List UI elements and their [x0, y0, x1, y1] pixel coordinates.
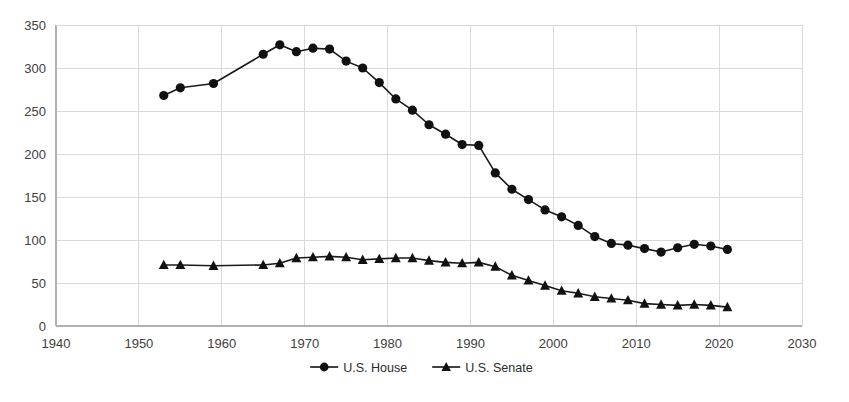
data-point-marker: [690, 240, 699, 249]
data-point-marker: [524, 195, 533, 204]
data-point-marker: [458, 140, 467, 149]
data-point-marker: [623, 241, 632, 250]
data-point-marker: [656, 247, 665, 256]
line-chart: 350300250200150100500 194019501960197019…: [0, 0, 849, 402]
x-tick-label: 1990: [456, 336, 485, 351]
x-tick-label: 2000: [539, 336, 568, 351]
data-point-marker: [292, 47, 301, 56]
x-tick-label: 1960: [207, 336, 236, 351]
x-tick-label: 1970: [290, 336, 319, 351]
y-tick-label: 100: [24, 233, 46, 248]
data-point-marker: [590, 232, 599, 241]
data-point-marker: [275, 40, 284, 49]
y-tick-label: 150: [24, 190, 46, 205]
x-tick-label: 1950: [124, 336, 153, 351]
chart-container: 350300250200150100500 194019501960197019…: [0, 0, 849, 402]
data-point-marker: [723, 245, 732, 254]
data-point-marker: [574, 221, 583, 230]
data-point-marker: [607, 239, 616, 248]
data-point-marker: [673, 243, 682, 252]
y-tick-label: 350: [24, 18, 46, 33]
x-tick-label: 2020: [705, 336, 734, 351]
x-tick-label: 2030: [788, 336, 817, 351]
data-point-marker: [408, 106, 417, 115]
data-point-marker: [159, 91, 168, 100]
data-point-marker: [491, 168, 500, 177]
data-point-marker: [391, 94, 400, 103]
data-point-marker: [209, 79, 218, 88]
data-point-marker: [424, 120, 433, 129]
data-point-marker: [640, 244, 649, 253]
data-point-marker: [557, 212, 566, 221]
data-point-marker: [259, 50, 268, 59]
data-point-marker: [706, 241, 715, 250]
x-tick-label: 2010: [622, 336, 651, 351]
data-point-marker: [308, 44, 317, 53]
data-point-marker: [325, 44, 334, 53]
y-tick-label: 200: [24, 147, 46, 162]
x-tick-label: 1940: [42, 336, 71, 351]
y-tick-label: 250: [24, 104, 46, 119]
y-tick-label: 50: [32, 276, 46, 291]
y-tick-label: 0: [39, 319, 46, 334]
data-point-marker: [358, 63, 367, 72]
data-point-marker: [474, 141, 483, 150]
legend-label: U.S. House: [343, 361, 407, 375]
y-tick-label: 300: [24, 61, 46, 76]
legend-label: U.S. Senate: [465, 361, 532, 375]
data-point-marker: [342, 57, 351, 66]
data-point-marker: [176, 83, 185, 92]
data-point-marker: [375, 78, 384, 87]
data-point-marker: [540, 205, 549, 214]
x-tick-label: 1980: [373, 336, 402, 351]
data-point-marker: [441, 130, 450, 139]
legend-marker-circle-icon: [320, 363, 329, 372]
data-point-marker: [507, 185, 516, 194]
